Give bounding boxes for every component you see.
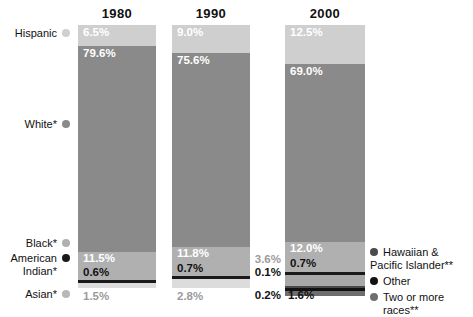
segment-1990-hispanic: 9.0% <box>172 25 250 53</box>
segment-value-2000-white: 69.0% <box>290 65 323 78</box>
legend-dot-two-or-more <box>370 293 378 301</box>
legend-label-other: Other <box>383 275 411 288</box>
legend-label-two-or-more: Two or more races** <box>383 291 473 317</box>
legend-dot-asian <box>62 290 70 298</box>
segment-value-1990-asian: 2.8% <box>177 290 203 303</box>
segment-value-2000-black: 12.0% <box>290 242 323 255</box>
legend-item-two-or-more[interactable]: Two or more races** <box>370 291 473 317</box>
legend-right: Hawaiian & Pacific Islander** Other Two … <box>370 246 473 317</box>
segment-value-1990-black: 11.8% <box>177 247 209 260</box>
legend-label-black: Black* <box>26 237 57 250</box>
legend-dot-hispanic <box>62 29 70 37</box>
bar-column-1990: 9.0% 75.6% 11.8% 0.7% <box>172 25 250 288</box>
legend-item-other[interactable]: Other <box>370 275 473 288</box>
segment-1980-white: 79.6% <box>78 46 156 252</box>
bar-column-2000: 12.5% 69.0% 12.0% 0.7% <box>285 25 365 288</box>
legend-dot-white <box>62 120 70 128</box>
legend-item-hispanic[interactable]: Hispanic <box>15 27 70 40</box>
segment-value-1990-white: 75.6% <box>177 54 210 67</box>
legend-label-white: White* <box>25 118 57 131</box>
legend-item-hawaiian[interactable]: Hawaiian & Pacific Islander** <box>370 246 473 272</box>
year-label-2000: 2000 <box>285 6 365 21</box>
segment-value-2000-hispanic: 12.5% <box>290 26 323 39</box>
segment-value-1980-white: 79.6% <box>83 47 116 60</box>
segment-value-2000-two-or-more: 1.6% <box>288 289 314 302</box>
segment-value-1980-hispanic: 6.5% <box>83 26 109 39</box>
legend-dot-hawaiian <box>370 248 378 256</box>
legend-item-white[interactable]: White* <box>25 118 70 131</box>
legend-label-hispanic: Hispanic <box>15 27 57 40</box>
segment-value-2000-asian: 3.6% <box>245 253 281 266</box>
year-label-1980: 1980 <box>78 6 156 21</box>
segment-value-2000-other: 0.2% <box>241 289 281 302</box>
legend-label-hawaiian-line1: Hawaiian & <box>383 246 453 259</box>
segment-1980-hispanic: 6.5% <box>78 25 156 46</box>
legend-label-american-indian-line1: American <box>11 252 57 265</box>
legend-label-hawaiian-line2: Pacific Islander** <box>370 259 453 272</box>
bar-column-1980: 6.5% 79.6% 11.5% 0.6% <box>78 25 156 288</box>
segment-1990-white: 75.6% <box>172 53 250 247</box>
legend-label-asian: Asian* <box>25 288 57 301</box>
legend-label-american-indian-line2: Indian* <box>11 265 57 278</box>
segment-value-1990-hispanic: 9.0% <box>177 26 203 39</box>
segment-2000-white: 69.0% <box>285 64 365 242</box>
segment-value-1980-american-indian: 0.6% <box>83 266 109 279</box>
legend-item-black[interactable]: Black* <box>26 237 70 250</box>
segment-2000-hispanic: 12.5% <box>285 25 365 64</box>
segment-1980-asian <box>78 283 156 288</box>
year-label-1990: 1990 <box>172 6 250 21</box>
segment-2000-asian <box>285 275 365 286</box>
segment-value-1980-black: 11.5% <box>83 252 115 265</box>
legend-dot-black <box>62 239 70 247</box>
segment-value-2000-american-indian: 0.7% <box>290 257 316 270</box>
legend-item-american-indian[interactable]: American Indian* <box>11 252 70 277</box>
segment-1990-asian <box>172 279 250 288</box>
legend-dot-other <box>370 277 378 285</box>
segment-value-1990-american-indian: 0.7% <box>177 262 203 275</box>
legend-item-asian[interactable]: Asian* <box>25 288 70 301</box>
legend-dot-american-indian <box>62 254 70 262</box>
segment-value-1980-asian: 1.5% <box>83 290 109 303</box>
segment-value-2000-hawaiian: 0.1% <box>245 266 281 279</box>
